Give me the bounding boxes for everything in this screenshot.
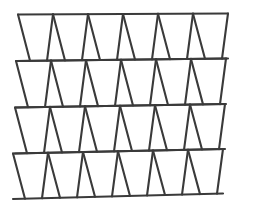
tessellation-canvas	[0, 0, 253, 213]
tessellation-figure	[0, 0, 253, 213]
